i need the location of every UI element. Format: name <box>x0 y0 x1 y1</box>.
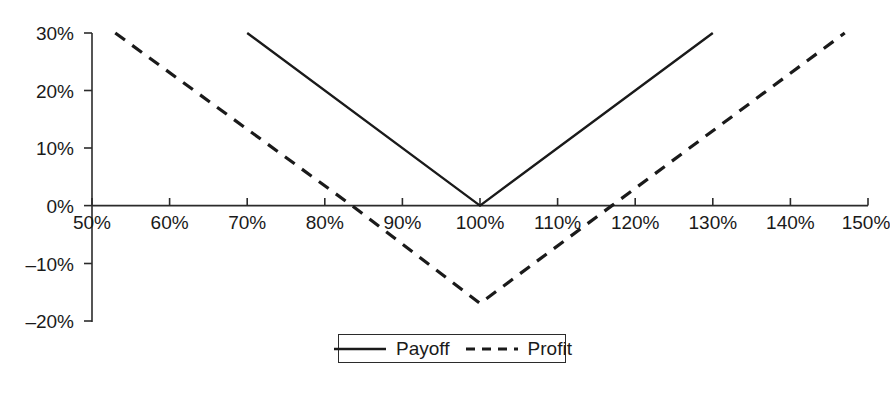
x-tick-label-70: 70% <box>228 213 266 232</box>
x-tick-label-150: 150% <box>842 213 890 232</box>
series-line-payoff <box>247 33 713 206</box>
y-tick-label-0: 0% <box>6 196 74 215</box>
y-axis-ticks <box>84 33 92 321</box>
series-line-profit <box>115 33 844 303</box>
legend-label-profit: Profit <box>528 339 572 358</box>
x-tick-label-60: 60% <box>151 213 189 232</box>
y-tick-label-10: 10% <box>6 139 74 158</box>
legend-label-payoff: Payoff <box>396 339 450 358</box>
x-tick-label-140: 140% <box>766 213 815 232</box>
legend-item-profit: Profit <box>464 339 572 358</box>
x-tick-label-100: 100% <box>456 213 505 232</box>
x-tick-label-50: 50% <box>73 213 111 232</box>
y-tick-label-neg20: –20% <box>0 312 74 331</box>
x-tick-label-120: 120% <box>611 213 660 232</box>
chart-legend: Payoff Profit <box>338 334 566 363</box>
y-tick-label-neg10: –10% <box>0 254 74 273</box>
x-tick-label-90: 90% <box>383 213 421 232</box>
x-tick-label-130: 130% <box>688 213 737 232</box>
x-tick-label-110: 110% <box>534 213 581 232</box>
y-tick-label-30: 30% <box>6 24 74 43</box>
legend-solid-line-icon <box>332 343 388 355</box>
x-tick-label-80: 80% <box>306 213 344 232</box>
legend-dashed-line-icon <box>464 343 520 355</box>
y-tick-label-20: 20% <box>6 81 74 100</box>
legend-item-payoff: Payoff <box>332 339 450 358</box>
